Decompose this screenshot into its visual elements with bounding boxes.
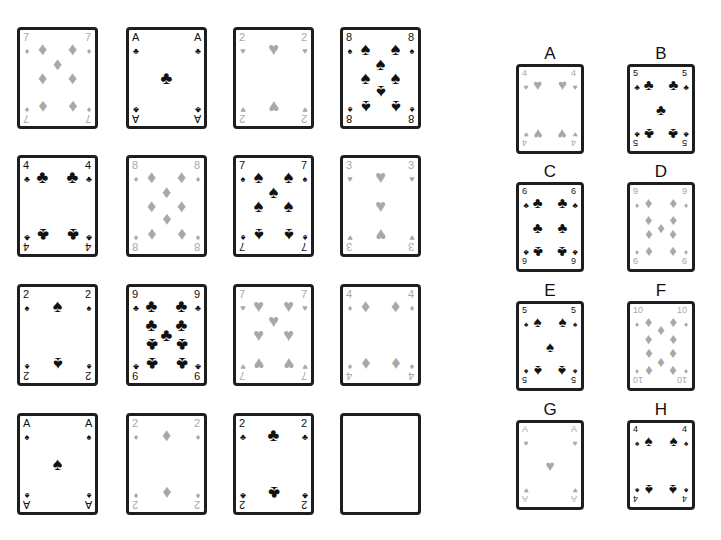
option-card-b[interactable]: 5♣5♣5♣5♣♣♣♣♣♣ (627, 64, 695, 154)
card-rank-corner: 10 (633, 306, 643, 315)
grid-card[interactable]: 2♣2♣2♣2♣♣♣ (233, 413, 314, 515)
card-rank-corner: 4 (522, 138, 527, 147)
grid-card[interactable]: 8♠8♠8♠8♠♠♠♠♠♠♠♠♠ (340, 27, 421, 129)
heart-icon: ♥ (558, 76, 567, 91)
club-icon: ♣ (37, 168, 49, 186)
diamond-icon: ♦ (25, 105, 30, 114)
spade-icon: ♠ (534, 313, 542, 328)
heart-icon: ♥ (533, 76, 542, 91)
spade-icon: ♠ (303, 175, 308, 184)
spade-icon: ♠ (361, 40, 371, 58)
spade-icon: ♠ (410, 105, 415, 114)
empty-card-slot[interactable] (340, 413, 421, 515)
diamond-icon: ♦ (177, 226, 186, 244)
card-rank-corner: 7 (85, 32, 91, 43)
grid-card[interactable]: 4♦4♦4♦4♦♦♦♦♦ (340, 284, 421, 386)
club-icon: ♣ (668, 127, 678, 142)
grid-card[interactable]: 3♥3♥3♥3♥♥♥♥ (340, 155, 421, 257)
card-rank-corner: 5 (682, 138, 687, 147)
card-rank-corner: 3 (408, 160, 414, 171)
grid-card[interactable]: 9♣9♣9♣9♣♣♣♣♣♣♣♣♣♣ (126, 284, 207, 386)
card-rank-corner: A (571, 425, 577, 434)
card-rank-corner: 2 (239, 499, 245, 510)
grid-card[interactable]: 2♥2♥2♥2♥♥♥ (233, 27, 314, 129)
heart-icon: ♥ (546, 458, 555, 473)
grid-card[interactable]: A♠A♠A♠A♠♠ (17, 413, 98, 515)
spade-icon: ♠ (669, 432, 677, 447)
card-rank-corner: 2 (85, 289, 91, 300)
heart-icon: ♥ (573, 84, 578, 92)
card-rank-corner: 4 (682, 425, 687, 434)
option-card-f[interactable]: 10♦10♦10♦10♦♦♦♦♦♦♦♦♦♦♦ (627, 301, 695, 391)
card-rank-corner: 7 (239, 160, 245, 171)
diamond-icon: ♦ (25, 47, 30, 56)
club-icon: ♣ (146, 297, 158, 315)
diamond-icon: ♦ (670, 228, 678, 243)
spade-icon: ♠ (534, 364, 542, 379)
grid-card[interactable]: 8♦8♦8♦8♦♦♦♦♦♦♦♦♦ (126, 155, 207, 257)
card-rank-corner: A (571, 494, 577, 503)
option-label: H (627, 400, 695, 420)
card-rank-corner: 9 (682, 256, 687, 265)
grid-card[interactable]: 7♥7♥7♥7♥♥♥♥♥♥♥♥ (233, 284, 314, 386)
heart-icon: ♥ (524, 440, 529, 448)
card-rank-corner: 7 (301, 370, 307, 381)
card-rank-corner: 2 (301, 32, 307, 43)
heart-icon: ♥ (573, 486, 578, 494)
card-rank-corner: 4 (571, 69, 576, 78)
card-rank-corner: 8 (408, 32, 414, 43)
card-rank-corner: 4 (23, 160, 29, 171)
heart-icon: ♥ (524, 486, 529, 494)
heart-icon: ♥ (302, 105, 307, 114)
option-card-h[interactable]: 4♠4♠4♠4♠♠♠♠♠ (627, 420, 695, 510)
club-icon: ♣ (533, 245, 543, 260)
club-icon: ♣ (146, 336, 158, 354)
club-icon: ♣ (161, 69, 173, 87)
option-card-a[interactable]: 4♥4♥4♥4♥♥♥♥♥ (516, 64, 584, 154)
diamond-icon: ♦ (196, 491, 201, 500)
club-icon: ♣ (656, 102, 666, 117)
card-rank-corner: 9 (132, 289, 138, 300)
grid-card[interactable]: 4♣4♣4♣4♣♣♣♣♣ (17, 155, 98, 257)
card-rank-corner: 2 (301, 113, 307, 124)
spade-icon: ♠ (524, 321, 528, 329)
heart-icon: ♥ (283, 297, 294, 315)
club-icon: ♣ (24, 233, 30, 242)
card-rank-corner: A (23, 499, 30, 510)
heart-icon: ♥ (302, 304, 307, 313)
option-card-e[interactable]: 5♠5♠5♠5♠♠♠♠♠♠ (516, 301, 584, 391)
diamond-icon: ♦ (134, 491, 139, 500)
card-rank-corner: 8 (408, 113, 414, 124)
option-card-c[interactable]: 6♣6♣6♣6♣♣♣♣♣♣♣ (516, 182, 584, 272)
club-icon: ♣ (37, 226, 49, 244)
spade-icon: ♠ (645, 483, 653, 498)
diamond-icon: ♦ (196, 175, 201, 184)
card-rank-corner: 9 (132, 370, 138, 381)
diamond-icon: ♦ (87, 47, 92, 56)
club-icon: ♣ (133, 304, 139, 313)
grid-card[interactable]: 2♦2♦2♦2♦♦♦ (126, 413, 207, 515)
diamond-icon: ♦ (361, 297, 370, 315)
club-icon: ♣ (683, 130, 688, 138)
heart-icon: ♥ (533, 127, 542, 142)
club-icon: ♣ (86, 233, 92, 242)
card-rank-corner: 7 (23, 32, 29, 43)
card-rank-corner: 9 (194, 370, 200, 381)
club-icon: ♣ (533, 220, 543, 235)
diamond-icon: ♦ (645, 313, 653, 328)
diamond-icon: ♦ (645, 245, 653, 260)
grid-card[interactable]: A♣A♣A♣A♣♣ (126, 27, 207, 129)
diamond-icon: ♦ (134, 433, 139, 442)
card-rank-corner: 8 (132, 241, 138, 252)
option-card-g[interactable]: A♥A♥A♥A♥♥ (516, 420, 584, 510)
card-rank-corner: 2 (132, 499, 138, 510)
diamond-icon: ♦ (162, 426, 171, 444)
grid-card[interactable]: 7♠7♠7♠7♠♠♠♠♠♠♠♠ (233, 155, 314, 257)
card-rank-corner: 4 (633, 494, 638, 503)
diamond-icon: ♦ (684, 321, 688, 329)
option-card-d[interactable]: 9♦9♦9♦9♦♦♦♦♦♦♦♦♦♦ (627, 182, 695, 272)
card-rank-corner: 5 (633, 69, 638, 78)
club-icon: ♣ (24, 175, 30, 184)
grid-card[interactable]: 7♦7♦7♦7♦♦♦♦♦♦♦♦ (17, 27, 98, 129)
grid-card[interactable]: 2♠2♠2♠2♠♠♠ (17, 284, 98, 386)
